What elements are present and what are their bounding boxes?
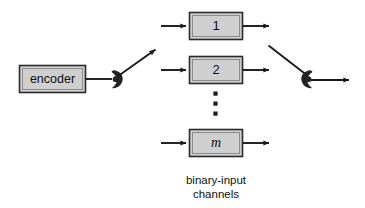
switch-pivot-left xyxy=(113,76,119,82)
ellipsis-dot-1 xyxy=(213,92,217,96)
caption-line-1: binary-input xyxy=(186,174,247,186)
encoder-block: encoder xyxy=(20,66,86,93)
channel-row-1: 1 xyxy=(161,13,269,40)
diagram-canvas: encoder 1 2 xyxy=(0,0,365,208)
channel-2-label: 2 xyxy=(212,62,219,77)
channel-ellipsis xyxy=(213,92,217,116)
encoder-label: encoder xyxy=(30,72,75,86)
caption-line-2: channels xyxy=(193,188,239,200)
channel-m-label: m xyxy=(211,135,221,150)
switch-pivot-right xyxy=(306,76,312,82)
output-branch-line xyxy=(269,46,309,77)
switch-branch-arrow xyxy=(118,50,156,77)
channel-1-label: 1 xyxy=(212,18,219,33)
figure-container: encoder 1 2 xyxy=(0,0,365,208)
channel-row-2: 2 xyxy=(161,57,269,84)
ellipsis-dot-2 xyxy=(213,102,217,106)
channel-row-m: m xyxy=(161,130,269,157)
ellipsis-dot-3 xyxy=(213,112,217,116)
